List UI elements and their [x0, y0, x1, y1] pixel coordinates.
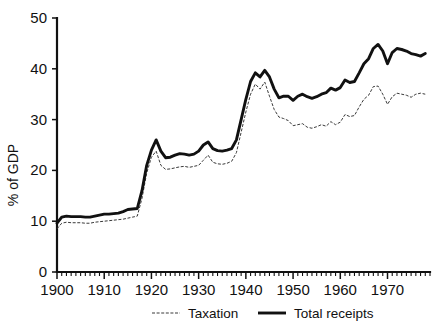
x-tick-label-1920: 1920 [135, 281, 168, 298]
series-line-taxation [57, 82, 425, 229]
y-tick-label-10: 10 [30, 212, 47, 229]
x-tick-label-1910: 1910 [88, 281, 121, 298]
x-axis-tick-labels: 19001910192019301940195019601970 [40, 281, 404, 298]
x-tick-label-1930: 1930 [182, 281, 215, 298]
legend-label-taxation: Taxation [188, 306, 238, 321]
y-tick-label-40: 40 [30, 60, 47, 77]
plot-area [57, 44, 425, 228]
x-tick-label-1950: 1950 [276, 281, 309, 298]
y-axis-title: % of GDP [5, 144, 21, 206]
y-tick-label-50: 50 [30, 9, 47, 26]
legend: Taxation Total receipts [152, 306, 374, 321]
x-axis-group: 19001910192019301940195019601970 [40, 272, 430, 298]
x-tick-label-1900: 1900 [40, 281, 73, 298]
gdp-line-chart: 01020304050 % of GDP 1900191019201930194… [0, 0, 441, 330]
y-tick-label-0: 0 [39, 263, 47, 280]
legend-label-total-receipts: Total receipts [294, 306, 374, 321]
x-tick-label-1960: 1960 [324, 281, 357, 298]
y-tick-label-30: 30 [30, 111, 47, 128]
x-tick-label-1970: 1970 [371, 281, 404, 298]
chart-container: 01020304050 % of GDP 1900191019201930194… [0, 0, 441, 330]
y-tick-label-20: 20 [30, 161, 47, 178]
y-axis-group: 01020304050 % of GDP [5, 9, 57, 280]
y-axis-tick-labels: 01020304050 [30, 9, 47, 280]
x-tick-label-1940: 1940 [229, 281, 262, 298]
